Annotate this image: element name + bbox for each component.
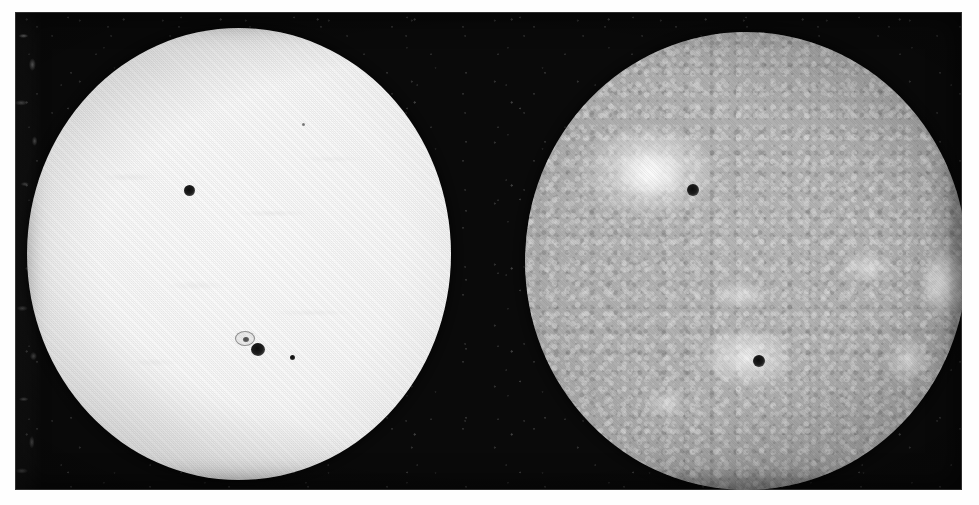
solar-plate-image [0, 0, 979, 505]
photograph-print [15, 12, 962, 490]
sunspot-northern [184, 185, 195, 196]
photosphere-mottling [27, 28, 451, 480]
plage-northern-core [621, 152, 679, 196]
solar-disk-photosphere [27, 28, 451, 480]
spectroheliogram-grain-texture [525, 32, 962, 490]
pore-upper-right [302, 123, 305, 126]
solar-disk-spectroheliogram [525, 32, 962, 490]
sunspot-leader-small [243, 337, 249, 342]
plage-east-limb [925, 250, 962, 316]
plage-central-streak [715, 282, 767, 308]
sunspot-follower-small [290, 355, 295, 360]
sunspot-main-umbra [251, 343, 265, 356]
plage-lower-left [647, 390, 685, 416]
plage-mid-right [843, 252, 891, 282]
sunspot-southern-k [753, 355, 765, 367]
plage-southern-region [705, 329, 791, 385]
sunspot-northern-k [687, 184, 699, 196]
plage-lower-right [887, 340, 929, 382]
